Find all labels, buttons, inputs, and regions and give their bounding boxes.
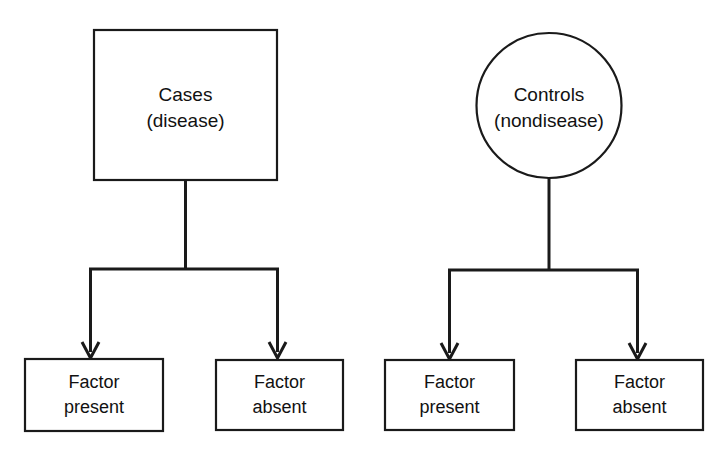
controls-factor-absent-label-line1: Factor [614, 372, 665, 392]
cases-node-label-line1: Cases [159, 84, 213, 105]
controls-node-label-line1: Controls [514, 84, 585, 105]
controls-factor-present-label-line1: Factor [424, 372, 475, 392]
controls-node-circle[interactable] [477, 33, 622, 178]
cases-factor-present-label-line1: Factor [68, 372, 119, 392]
controls-node-label-line2: (nondisease) [494, 110, 604, 131]
controls-factor-absent-box[interactable] [576, 360, 703, 430]
cases-factor-present-label-line2: present [64, 397, 124, 417]
controls-factor-present-label-line2: present [419, 397, 479, 417]
diagram-canvas: Cases (disease) Factor present Factor ab… [0, 0, 724, 458]
cases-factor-absent-label-line1: Factor [254, 372, 305, 392]
cases-node-label-line2: (disease) [146, 110, 224, 131]
controls-factor-absent-label-line2: absent [612, 397, 666, 417]
cases-factor-absent-box[interactable] [216, 360, 343, 430]
controls-factor-present-box[interactable] [385, 360, 514, 430]
controls-branch: Controls (nondisease) Factor present Fac… [385, 33, 703, 430]
cases-factor-present-box[interactable] [25, 359, 163, 431]
cases-factor-absent-label-line2: absent [252, 397, 306, 417]
cases-branch: Cases (disease) Factor present Factor ab… [25, 30, 343, 431]
case-control-diagram: Cases (disease) Factor present Factor ab… [0, 0, 724, 458]
